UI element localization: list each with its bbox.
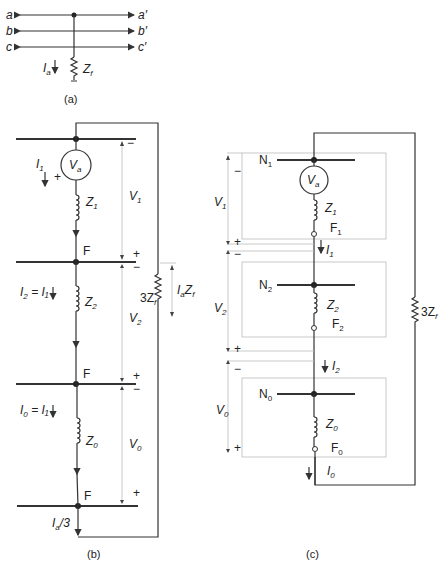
arrow-tip — [226, 449, 230, 453]
node-f-label: F — [83, 244, 90, 258]
minus-sign: − — [234, 362, 241, 376]
sequence-network-diagram: a b c a′ b′ c′ Ia Zf (a) Va — [0, 0, 448, 567]
arrow-tip — [120, 500, 124, 504]
minus-sign: − — [234, 164, 241, 178]
i2-label: I2 = I₁ — [20, 285, 49, 301]
iazf-label: IaZf — [177, 283, 195, 299]
i1-label: I1 — [36, 157, 44, 173]
arrow-tip — [170, 312, 174, 317]
z1-label: Z1 — [324, 201, 337, 217]
caption-a: (a) — [64, 93, 77, 105]
i1-label: I1 — [326, 243, 334, 259]
inductor-icon — [77, 418, 80, 443]
minus-sign: − — [127, 136, 134, 150]
fault-resistor-icon — [71, 57, 77, 80]
inductor-icon — [314, 293, 317, 313]
figure-b: Va Z1 I1 + F Z2 I2 = I₁ F Z0 I0 = I₁ F I… — [16, 123, 195, 560]
z0-label: Z0 — [85, 434, 98, 450]
i0-label: I0 = I₁ — [20, 403, 49, 419]
arrow-tip — [120, 141, 124, 146]
v0-label: V0 — [129, 437, 142, 453]
return-wire — [76, 123, 158, 537]
inductor-icon — [76, 286, 79, 311]
3zf-label: 3Zf — [421, 305, 438, 321]
inductor-icon — [76, 195, 79, 220]
plus-sign: + — [234, 441, 241, 455]
v2-label: V2 — [129, 311, 142, 327]
z2-label: Z2 — [84, 295, 97, 311]
v2-label: V2 — [214, 301, 227, 317]
figure-a: a b c a′ b′ c′ Ia Zf (a) — [6, 8, 148, 105]
i0-label: I0 — [327, 464, 335, 480]
arrow-tip — [170, 265, 174, 270]
zf-label: Zf — [82, 62, 93, 78]
z1-label: Z1 — [85, 195, 98, 211]
v0-label: V0 — [216, 403, 229, 419]
label-a-prime: a′ — [138, 8, 148, 22]
inductor-icon — [314, 200, 317, 220]
f0-label: F0 — [331, 441, 343, 457]
f2-label: F2 — [332, 317, 344, 333]
v1-label: V1 — [214, 195, 226, 211]
node-f-label: F — [84, 489, 91, 503]
f1-label: F1 — [330, 221, 342, 237]
v1-label: V1 — [129, 189, 141, 205]
plus-sign: + — [234, 342, 241, 356]
inductor-icon — [314, 417, 317, 437]
caption-b: (b) — [87, 548, 100, 560]
arrow-tip — [120, 378, 124, 382]
terminal-f0 — [313, 447, 318, 452]
ia-over-3-label: Ia/3 — [52, 516, 70, 532]
plus-sign: + — [133, 247, 140, 261]
n1-label: N1 — [259, 153, 273, 169]
figure-c: N1 Va Z1 F1 I1 N2 Z2 F2 I2 N0 Z0 F — [214, 133, 438, 560]
node-f-label: F — [83, 367, 90, 381]
plus-sign: + — [54, 170, 61, 184]
va-label: Va — [69, 158, 82, 174]
z2-label: Z2 — [326, 298, 339, 314]
minus-sign: − — [133, 260, 140, 274]
label-a: a — [6, 8, 13, 22]
label-c: c — [6, 40, 12, 54]
arrow-tip — [120, 255, 124, 260]
label-b: b — [6, 24, 13, 38]
arrow-tip — [120, 386, 124, 390]
plus-sign: + — [133, 369, 140, 383]
arrow-tip — [120, 264, 124, 268]
minus-sign: − — [133, 382, 140, 396]
terminal-f1 — [312, 232, 317, 237]
n0-label: N0 — [259, 387, 273, 403]
plus-sign: + — [133, 486, 140, 500]
label-b-prime: b′ — [138, 24, 148, 38]
arrow-tip — [226, 155, 230, 160]
minus-sign: − — [234, 247, 241, 261]
wire — [77, 474, 78, 506]
ia-label: Ia — [43, 61, 51, 77]
n2-label: N2 — [259, 278, 273, 294]
terminal-f2 — [312, 326, 317, 331]
label-c-prime: c′ — [138, 40, 147, 54]
va-label: Va — [307, 173, 320, 189]
z0-label: Z0 — [325, 417, 338, 433]
i2-label: I2 — [332, 359, 340, 375]
caption-c: (c) — [306, 548, 319, 560]
